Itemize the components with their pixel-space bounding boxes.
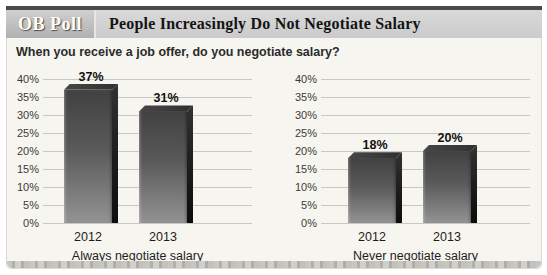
gridline-40%	[43, 79, 252, 80]
bar-side-face	[396, 152, 402, 223]
x-axis-category-2012: 2012	[74, 230, 102, 244]
ob-poll-panel: OB Poll People Increasingly Do Not Negot…	[6, 6, 542, 269]
gridline-30%	[321, 115, 530, 116]
bar-value-label: 31%	[153, 91, 178, 105]
y-axis-tick-15%: 15%	[283, 164, 317, 175]
y-axis-tick-30%: 30%	[283, 110, 317, 121]
y-axis-tick-25%: 25%	[283, 128, 317, 139]
y-axis-tick-40%: 40%	[5, 74, 39, 85]
gridline-25%	[321, 133, 530, 134]
bar-front-face	[139, 111, 187, 223]
panel-title: People Increasingly Do Not Negotiate Sal…	[96, 10, 421, 38]
y-axis-tick-0%: 0%	[283, 218, 317, 229]
y-axis-tick-30%: 30%	[5, 110, 39, 121]
bar-side-face	[112, 84, 118, 223]
survey-question: When you receive a job offer, do you neg…	[16, 45, 340, 59]
y-axis-tick-35%: 35%	[283, 92, 317, 103]
bar-value-label: 20%	[437, 131, 462, 145]
y-axis-tick-20%: 20%	[5, 146, 39, 157]
bar-front-face	[348, 158, 396, 223]
bar-front-face	[64, 90, 112, 223]
y-axis-tick-40%: 40%	[283, 74, 317, 85]
y-axis-tick-5%: 5%	[5, 200, 39, 211]
y-axis-tick-35%: 35%	[5, 92, 39, 103]
plot-area: 40%35%30%25%20%15%10%5%0%18%201220%2013N…	[325, 79, 530, 223]
panel-content: When you receive a job offer, do you neg…	[6, 38, 542, 269]
bar-value-label: 18%	[362, 138, 387, 152]
y-axis-tick-10%: 10%	[283, 182, 317, 193]
screen: OB Poll People Increasingly Do Not Negot…	[0, 0, 547, 275]
y-axis-tick-20%: 20%	[283, 146, 317, 157]
bar-2012: 37%	[64, 90, 112, 223]
x-axis-category-2012: 2012	[358, 230, 386, 244]
y-axis-tick-0%: 0%	[5, 218, 39, 229]
x-axis-category-2013: 2013	[149, 230, 177, 244]
bar-2013: 31%	[139, 111, 187, 223]
panel-bottom-edge	[7, 261, 541, 268]
x-axis-category-2013: 2013	[433, 230, 461, 244]
bar-side-face	[187, 105, 193, 223]
gridline-0%	[43, 223, 252, 224]
gridline-40%	[321, 79, 530, 80]
bar-side-face	[471, 145, 477, 223]
chart-never-negotiate-salary: 40%35%30%25%20%15%10%5%0%18%201220%2013N…	[289, 68, 538, 270]
bar-2013: 20%	[423, 151, 471, 223]
ob-poll-badge: OB Poll	[6, 10, 96, 38]
y-axis-tick-5%: 5%	[283, 200, 317, 211]
ob-poll-badge-label: OB Poll	[18, 14, 82, 35]
y-axis-tick-25%: 25%	[5, 128, 39, 139]
gridline-35%	[321, 97, 530, 98]
bar-value-label: 37%	[78, 70, 103, 84]
bar-2012: 18%	[348, 158, 396, 223]
plot-area: 40%35%30%25%20%15%10%5%0%37%201231%2013A…	[47, 79, 252, 223]
panel-header: OB Poll People Increasingly Do Not Negot…	[6, 10, 542, 38]
chart-always-negotiate-salary: 40%35%30%25%20%15%10%5%0%37%201231%2013A…	[11, 68, 260, 270]
y-axis-tick-15%: 15%	[5, 164, 39, 175]
bar-front-face	[423, 151, 471, 223]
gridline-0%	[321, 223, 530, 224]
y-axis-tick-10%: 10%	[5, 182, 39, 193]
